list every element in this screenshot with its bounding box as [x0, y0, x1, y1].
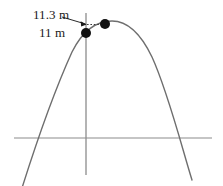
initial-point-marker — [81, 28, 91, 38]
initial-height-label: 11 m — [39, 26, 65, 39]
trajectory-curve — [22, 21, 192, 186]
figure-canvas — [0, 0, 223, 186]
parabola-figure: 11.3 m 11 m — [0, 0, 223, 186]
apex-height-label: 11.3 m — [33, 8, 69, 21]
apex-point-marker — [100, 19, 110, 29]
